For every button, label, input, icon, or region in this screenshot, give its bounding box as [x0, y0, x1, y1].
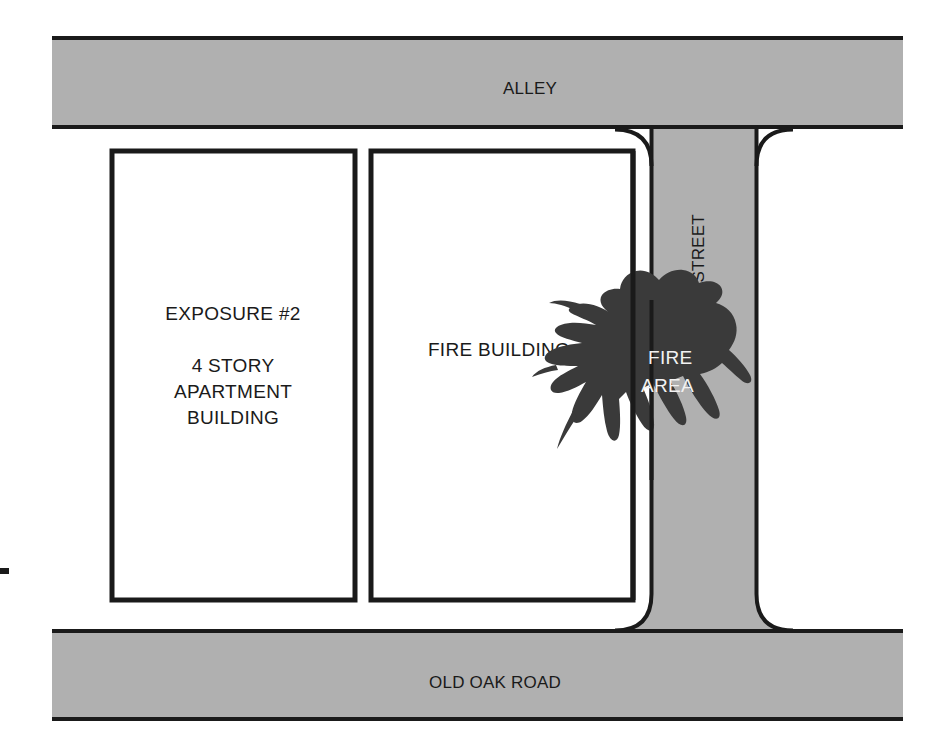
alley-edge-top: [52, 36, 903, 40]
fire-building-right-wall-overlay: [631, 151, 636, 600]
exposure-2-label-detail-2: APARTMENT: [174, 381, 292, 402]
left-edge-tick-mark: [0, 568, 9, 574]
exposure-2-label-detail-1: 4 STORY: [192, 355, 275, 376]
alley-label: ALLEY: [503, 79, 557, 98]
street-old-oak-road: OLD OAK ROAD: [52, 629, 903, 721]
fire-area-label-line-2: AREA: [641, 375, 694, 396]
thirteenth-street-flare-top-right: [757, 130, 794, 167]
exposure-2-label-detail-3: BUILDING: [187, 407, 279, 428]
alley-pavement: [52, 39, 903, 127]
site-plan-diagram: ALLEY 13TH STREET OLD OAK ROAD EXPOS: [0, 0, 952, 746]
old-oak-road-edge-top: [52, 629, 903, 633]
fire-area-label-line-1: FIRE: [648, 347, 692, 368]
alley-edge-bottom: [52, 125, 903, 129]
exposure-2-label-main: EXPOSURE #2: [165, 303, 300, 324]
old-oak-road-edge-bottom: [52, 717, 903, 721]
street-alley: ALLEY: [52, 36, 903, 129]
old-oak-road-label: OLD OAK ROAD: [429, 673, 561, 692]
thirteenth-street-kerb-right: [757, 129, 794, 631]
building-exposure-2: EXPOSURE #2 4 STORY APARTMENT BUILDING: [112, 151, 355, 600]
